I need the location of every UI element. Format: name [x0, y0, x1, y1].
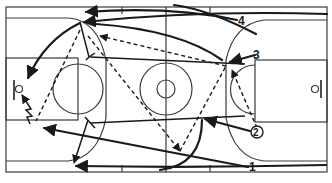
bottom-cut: [76, 165, 326, 167]
player-2-arrow: [205, 119, 250, 131]
player-3-label: 3: [253, 48, 260, 62]
court-lines: [6, 7, 327, 172]
pass-1: [36, 30, 80, 121]
pass-4: [232, 70, 257, 128]
screen-top: [80, 22, 95, 60]
left-hoop: [16, 86, 23, 93]
player-2-label: 2: [253, 127, 259, 138]
player-4-cut: [84, 13, 327, 22]
curve-to-basket: [28, 23, 80, 78]
curve-3: [96, 24, 222, 60]
cut-down-left: [74, 120, 88, 163]
court-diagram: 4 3 2 1: [0, 0, 332, 183]
right-key: [255, 60, 327, 122]
cross-line-bottom: [91, 116, 245, 123]
left-key: [6, 58, 78, 120]
pass-3: [180, 66, 226, 151]
player-3-arrow: [230, 55, 255, 62]
right-free-throw-circle: [231, 65, 255, 114]
player-4-label: 4: [238, 14, 245, 28]
right-hoop: [312, 86, 319, 93]
left-free-throw-circle: [78, 64, 103, 114]
player-1-label: 1: [249, 160, 256, 174]
left-free-throw-circle-inner: [53, 64, 78, 114]
